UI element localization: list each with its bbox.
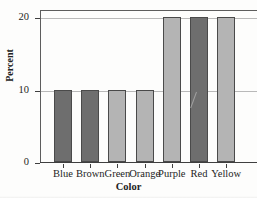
y-tick-mark-10 <box>35 91 40 92</box>
y-tick-label-0: 0 <box>0 157 29 168</box>
page-edge-shadow <box>0 196 257 198</box>
chart-title: Plain Colorful M&M's <box>0 0 257 3</box>
bar-blue <box>54 90 72 163</box>
bar-yellow <box>217 17 235 162</box>
x-tick-label-yellow: Yellow <box>202 168 250 180</box>
y-tick-mark-20 <box>35 18 40 19</box>
bar-orange <box>136 90 154 163</box>
bar-chart-figure: Plain Colorful M&M's Percent 01020 BlueB… <box>0 0 257 198</box>
plot-area: 01020 <box>40 10 257 163</box>
bar-red <box>190 17 208 162</box>
x-axis-title: Color <box>0 181 257 192</box>
y-tick-mark-0 <box>35 163 40 164</box>
bar-purple <box>163 17 181 162</box>
y-tick-label-10: 10 <box>0 85 29 96</box>
bar-brown <box>81 90 99 163</box>
y-tick-label-20: 20 <box>0 12 29 23</box>
bar-green <box>108 90 126 163</box>
plot-frame-top <box>40 10 257 11</box>
plot-frame-bottom <box>40 162 257 163</box>
plot-frame-left <box>40 10 41 163</box>
